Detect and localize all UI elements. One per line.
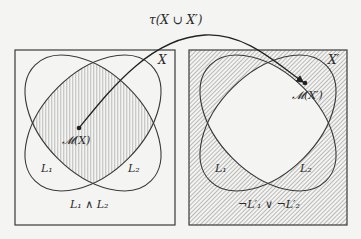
right-panel: X′ 𝓜(X′) L₁ L₂ ¬L′₁ ∨ ¬L′₂ [175,30,361,225]
point-mx-label: 𝓜(X) [62,134,90,147]
l2-right-label: L₂ [299,162,312,175]
set-x-prime-label: X′ [327,53,340,67]
l1-and-l2-label: L₁ ∧ L₂ [69,198,108,211]
left-panel: X 𝓜(X) L₁ L₂ L₁ ∧ L₂ [0,30,186,225]
point-mx-prime-label: 𝓜(X′) [292,89,323,102]
set-x-label: X [157,53,167,67]
point-mx-prime [303,81,308,86]
not-l1-or-not-l2-label: ¬L′₁ ∨ ¬L′₂ [238,198,300,211]
diagram-canvas: X 𝓜(X) L₁ L₂ L₁ ∧ L₂ X′ 𝓜(X′) L₁ L₂ ¬L′₁… [0,0,361,239]
tau-label: τ(X ∪ X′) [149,13,203,27]
l1-left-label: L₁ [40,162,53,175]
l2-left-label: L₂ [127,162,140,175]
l1-right-label: L₁ [214,162,227,175]
